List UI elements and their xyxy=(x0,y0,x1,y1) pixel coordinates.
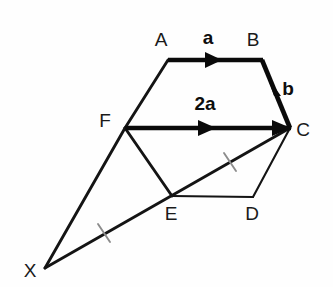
vector-label-a: a xyxy=(203,27,214,48)
tick-EC xyxy=(224,153,236,171)
vertex-label-X: X xyxy=(24,260,37,281)
vertex-label-A: A xyxy=(155,29,168,50)
edge-A-F xyxy=(125,60,168,128)
arrowhead-a xyxy=(205,52,222,68)
vertex-label-D: D xyxy=(245,203,259,224)
vertex-label-B: B xyxy=(247,29,260,50)
vector-label-2a: 2a xyxy=(194,93,216,114)
diagram-canvas: A B C D E F X a b 2a xyxy=(0,0,333,287)
vertex-label-E: E xyxy=(165,203,178,224)
construction-edges xyxy=(45,60,290,268)
edge-F-E xyxy=(125,128,172,196)
vertex-label-F: F xyxy=(99,110,111,131)
arrowhead-2a xyxy=(198,120,216,136)
edge-X-F xyxy=(45,128,125,268)
vector-diagram-figure: A B C D E F X a b 2a xyxy=(0,0,333,287)
vector-label-b: b xyxy=(282,78,294,99)
edge-E-D xyxy=(172,196,253,197)
vertex-label-C: C xyxy=(296,119,310,140)
